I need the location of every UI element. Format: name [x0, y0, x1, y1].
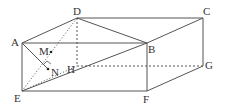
label-a: A	[11, 36, 19, 48]
edge-ad	[22, 18, 77, 43]
point-n	[47, 68, 50, 71]
label-h: H	[67, 63, 75, 75]
point-m	[50, 51, 53, 54]
right-angle-icon	[44, 61, 51, 64]
label-e: E	[14, 92, 21, 104]
labels-group: ABCDEFGHMN	[11, 5, 213, 105]
edge-bc	[147, 18, 203, 43]
edge-db	[77, 18, 147, 43]
right-angle-mark	[44, 61, 51, 64]
label-g: G	[205, 59, 213, 71]
edge-fg	[147, 66, 203, 91]
label-n: N	[51, 66, 59, 78]
label-d: D	[73, 5, 81, 17]
label-c: C	[203, 5, 210, 17]
label-m: M	[39, 45, 49, 57]
prism-svg: ABCDEFGHMN	[0, 0, 225, 107]
edges-group	[22, 18, 203, 91]
prism-diagram: ABCDEFGHMN	[0, 0, 225, 107]
label-f: F	[143, 93, 149, 105]
label-b: B	[148, 43, 155, 55]
